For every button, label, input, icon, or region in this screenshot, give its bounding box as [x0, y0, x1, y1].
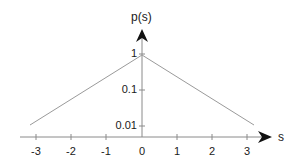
x-tick-label-neg3: -3 — [31, 146, 41, 157]
x-axis-label: s — [278, 131, 284, 143]
x-tick-label-0: 0 — [139, 146, 145, 157]
y-tick-label-0.1: 0.1 — [122, 84, 137, 95]
y-tick-label-0.01: 0.01 — [116, 120, 137, 131]
y-tick-label-1: 1 — [131, 48, 137, 59]
x-tick-label-2: 2 — [209, 146, 215, 157]
x-tick-label-1: 1 — [174, 146, 180, 157]
chart-canvas — [0, 0, 300, 166]
y-axis-label: p(s) — [131, 11, 152, 23]
x-tick-label-neg1: -1 — [101, 146, 111, 157]
x-tick-label-3: 3 — [244, 146, 250, 157]
x-tick-label-neg2: -2 — [66, 146, 76, 157]
